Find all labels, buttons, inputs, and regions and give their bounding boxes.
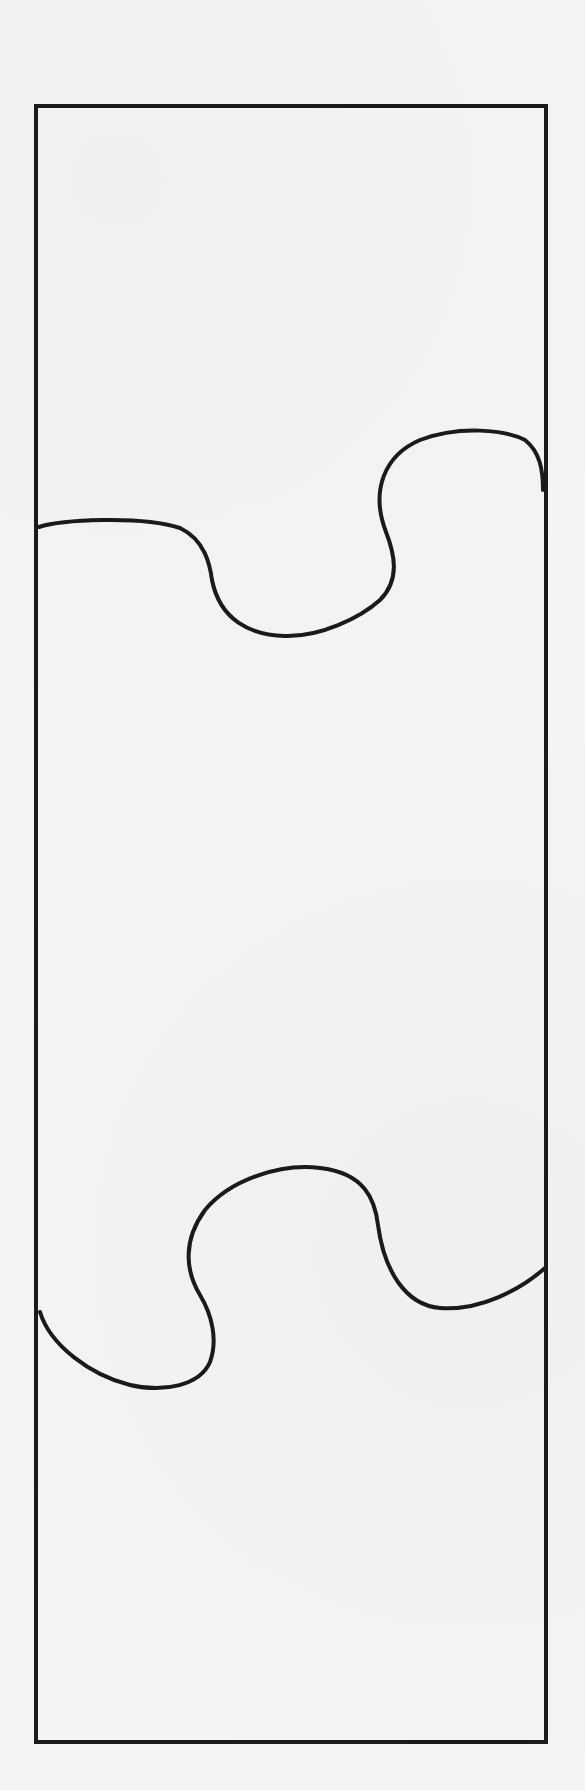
upper-wavy-cut-line [39,431,543,637]
outer-rectangle [36,106,546,1742]
puzzle-strip-diagram [0,0,585,1790]
lower-wavy-cut-line [40,1167,545,1388]
